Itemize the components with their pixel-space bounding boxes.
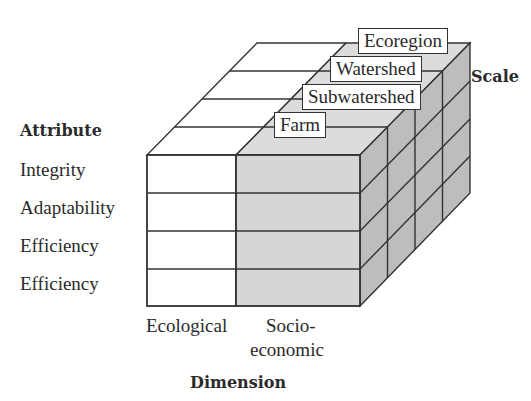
attribute-adaptability: Adaptability — [20, 198, 115, 217]
dimension-socioeconomic-line2: economic — [250, 340, 324, 359]
scale-ecoregion: Ecoregion — [358, 28, 448, 54]
attribute-integrity: Integrity — [20, 160, 85, 179]
attribute-efficiency-1: Efficiency — [20, 236, 99, 255]
scale-watershed: Watershed — [330, 56, 422, 82]
dimension-ecological: Ecological — [146, 316, 227, 335]
attribute-axis-title: Attribute — [20, 123, 102, 139]
scale-axis-title: Scale — [471, 69, 519, 85]
scale-farm: Farm — [274, 112, 326, 138]
dimension-axis-title: Dimension — [190, 375, 286, 391]
dimension-socioeconomic-line1: Socio- — [266, 316, 316, 335]
scale-subwatershed: Subwatershed — [302, 84, 421, 110]
attribute-efficiency-2: Efficiency — [20, 274, 99, 293]
